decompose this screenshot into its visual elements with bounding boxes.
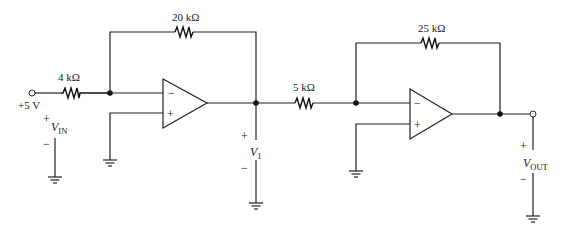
vout-plus-sign: + xyxy=(520,139,527,153)
resistor-25k: 25 kΩ xyxy=(418,22,445,48)
opamp-2: − + xyxy=(410,89,452,139)
resistor-20k: 20 kΩ xyxy=(172,11,199,37)
input-source-label: +5 V xyxy=(18,99,40,111)
resistor-4k-label: 4 kΩ xyxy=(58,71,80,83)
resistor-5k: 5 kΩ xyxy=(293,81,315,108)
v1-minus-sign: − xyxy=(241,161,248,175)
resistor-25k-label: 25 kΩ xyxy=(418,22,445,34)
v1-label: V1 xyxy=(250,145,262,161)
vin-plus-sign: + xyxy=(43,112,50,126)
v1-measurement: + V1 − xyxy=(241,103,263,209)
circuit-diagram: +5 V + VIN − 4 kΩ 20 kΩ − + xyxy=(0,0,561,230)
opamp1-noninverting-sign: + xyxy=(167,107,174,121)
opamp2-noninverting-sign: + xyxy=(414,118,421,132)
node-output xyxy=(497,111,503,117)
ground-icon xyxy=(48,177,62,183)
vout-minus-sign: − xyxy=(520,172,527,186)
ground-icon xyxy=(349,171,363,177)
opamp1-inverting-sign: − xyxy=(168,86,175,100)
vout-label: VOUT xyxy=(523,156,549,172)
ground-icon xyxy=(103,160,117,166)
v1-plus-sign: + xyxy=(241,129,248,143)
ground-icon xyxy=(526,216,540,222)
ground-icon xyxy=(249,203,263,209)
resistor-20k-label: 20 kΩ xyxy=(172,11,199,23)
output-terminal xyxy=(530,111,536,117)
opamp2-inverting-sign: − xyxy=(414,96,421,110)
input-terminal xyxy=(29,90,35,96)
resistor-4k: 4 kΩ xyxy=(58,71,110,98)
vin-minus-sign: − xyxy=(43,137,50,151)
input-source: +5 V + VIN − xyxy=(18,90,67,183)
vin-label: VIN xyxy=(51,120,67,136)
vout-measurement: + VOUT − xyxy=(520,117,549,222)
opamp-1: − + xyxy=(163,79,207,128)
resistor-5k-label: 5 kΩ xyxy=(293,81,315,93)
